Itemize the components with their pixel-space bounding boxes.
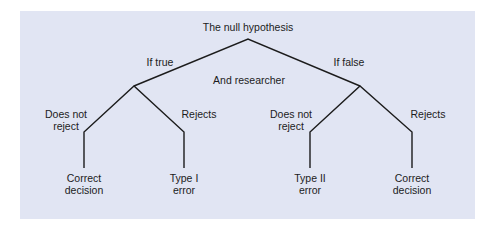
right-outcome-type-ii-error: Type II error (294, 172, 326, 196)
if-false-label: If false (334, 56, 365, 68)
right-does-not-reject-line1: Does not (270, 108, 312, 120)
left-rejects-label: Rejects (181, 108, 216, 120)
if-true-label: If true (147, 56, 174, 68)
and-researcher-label: And researcher (213, 74, 285, 86)
left-outcome-keep-line1: Correct (65, 172, 104, 184)
left-does-not-reject-line1: Does not (45, 108, 87, 120)
right-outcome-keep-line1: Type II (294, 172, 326, 184)
left-does-not-reject-label: Does not reject (45, 108, 87, 132)
right-rejects-label: Rejects (410, 108, 445, 120)
left-outcome-reject-line2: error (170, 184, 199, 196)
left-outcome-correct-decision: Correct decision (65, 172, 104, 196)
left-outcome-reject-line1: Type I (170, 172, 199, 184)
left-outcome-type-i-error: Type I error (170, 172, 199, 196)
right-does-not-reject-line2: reject (270, 120, 312, 132)
right-subtree-lines (310, 86, 412, 168)
right-outcome-keep-line2: error (294, 184, 326, 196)
right-outcome-correct-decision: Correct decision (393, 172, 432, 196)
root-label: The null hypothesis (203, 21, 293, 33)
right-does-not-reject-label: Does not reject (270, 108, 312, 132)
left-does-not-reject-line2: reject (45, 120, 87, 132)
left-outcome-keep-line2: decision (65, 184, 104, 196)
right-outcome-reject-line1: Correct (393, 172, 432, 184)
left-subtree-lines (84, 86, 184, 168)
right-outcome-reject-line2: decision (393, 184, 432, 196)
